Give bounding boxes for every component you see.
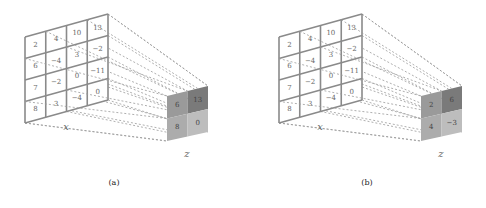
output-cell-value: 8 <box>175 123 179 131</box>
output-matrix-z: 264−3 <box>421 86 462 141</box>
input-cell-value: −2 <box>305 78 315 86</box>
input-cell-value: −2 <box>346 45 356 53</box>
input-cell-value: 2 <box>33 41 37 49</box>
input-cell-value: 6 <box>287 62 292 70</box>
input-cell-value: −11 <box>90 67 105 75</box>
input-cell-value: 10 <box>326 29 335 37</box>
output-matrix-z: 61380 <box>167 86 208 141</box>
input-cell-value: −11 <box>344 67 359 75</box>
input-cell-value: −4 <box>326 94 337 102</box>
output-cell-value: 0 <box>196 119 200 127</box>
input-cell-value: 13 <box>93 24 102 32</box>
output-cell-value: 4 <box>429 123 434 131</box>
panel-caption: (a) <box>108 178 119 187</box>
panel-caption: (b) <box>361 178 372 187</box>
input-cell-value: 4 <box>54 35 59 43</box>
panel-b-average-pooling: 264−32410136−43−27−20−1183−40xz(b) <box>279 14 462 187</box>
input-cell-value: 2 <box>287 41 291 49</box>
input-cell-value: 3 <box>75 51 79 59</box>
output-label-z: z <box>183 148 190 159</box>
input-cell-value: 3 <box>54 100 58 108</box>
input-cell-value: 13 <box>347 24 356 32</box>
input-cell-value: −4 <box>305 57 316 65</box>
input-cell-value: 0 <box>329 72 333 80</box>
output-cell-value: −3 <box>447 119 457 127</box>
input-cell-value: 7 <box>33 84 37 92</box>
input-cell-value: 8 <box>33 105 37 113</box>
panel-a-max-pooling: 613802410136−43−27−20−1183−40xz(a) <box>25 14 208 187</box>
input-cell-value: 3 <box>308 100 312 108</box>
output-cell-value: 6 <box>450 96 455 104</box>
output-cell-value: 6 <box>175 101 180 109</box>
input-cell-value: −2 <box>92 45 102 53</box>
input-label-x: x <box>317 121 323 132</box>
output-label-z: z <box>437 148 444 159</box>
input-cell-value: 0 <box>95 88 99 96</box>
pooling-diagram: 613802410136−43−27−20−1183−40xz(a) 264−3… <box>0 0 486 208</box>
input-cell-value: 3 <box>329 51 333 59</box>
input-cell-value: −2 <box>51 78 61 86</box>
input-cell-value: 8 <box>287 105 291 113</box>
input-cell-value: −4 <box>51 57 62 65</box>
output-cell-value: 13 <box>193 96 202 104</box>
input-cell-value: 0 <box>75 72 79 80</box>
input-cell-value: −4 <box>72 94 83 102</box>
output-cell-value: 2 <box>429 101 433 109</box>
input-cell-value: 6 <box>33 62 38 70</box>
input-cell-value: 10 <box>72 29 81 37</box>
input-cell-value: 7 <box>287 84 291 92</box>
input-cell-value: 4 <box>308 35 313 43</box>
input-label-x: x <box>63 121 69 132</box>
input-cell-value: 0 <box>349 88 353 96</box>
